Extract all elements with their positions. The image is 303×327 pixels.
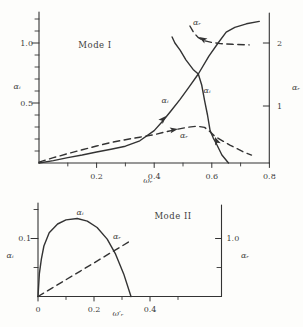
stability-figure: 0.20.40.60.80.51.012αᵣαᵢαᵢαᵣ 00.20.40.11… — [0, 0, 303, 327]
y-right-tick-label: 1.0 — [227, 234, 240, 243]
curve-annotation: αᵣ — [193, 18, 201, 27]
curve-alpha-r-mode2 — [38, 242, 129, 297]
direction-arrowhead — [170, 126, 179, 133]
x-tick-label: 0.2 — [90, 172, 103, 181]
curve-annotation: αᵣ — [180, 131, 188, 140]
mode-i-plot: 0.20.40.60.80.51.012αᵣαᵢαᵢαᵣ — [20, 12, 282, 181]
x-tick-label: 0.4 — [144, 305, 157, 314]
mode-i-left-axis-label: αᵢ — [13, 82, 20, 91]
y-left-tick-label: 0.1 — [18, 234, 31, 243]
x-tick-label: 0.8 — [263, 172, 276, 181]
figure-canvas: 0.20.40.60.80.51.012αᵣαᵢαᵢαᵣ 00.20.40.11… — [0, 0, 303, 327]
x-tick-label: 0 — [35, 305, 40, 314]
direction-arrowhead — [198, 34, 208, 43]
y-left-tick-label: 0.5 — [20, 99, 33, 108]
mode-i-right-axis-label: αᵣ — [292, 83, 300, 92]
mode-ii-title: Mode II — [154, 211, 191, 221]
mode-ii-plot: 00.20.40.11.0αᵢαᵣ — [18, 203, 239, 314]
curve-alpha-i-upper-branch — [172, 37, 228, 163]
x-tick-label: 0.6 — [205, 172, 218, 181]
curve-annotation: αᵢ — [76, 208, 83, 217]
mode-ii-x-axis-label: ω′ᵣ — [112, 309, 123, 318]
curve-annotation: αᵣ — [113, 232, 121, 241]
curve-annotation: αᵢ — [161, 96, 168, 105]
x-tick-label: 0.2 — [88, 305, 101, 314]
mode-ii-right-axis-label: αᵣ — [241, 251, 249, 260]
mode-i-title: Mode I — [78, 40, 111, 50]
curve-alpha-i-lower-branch — [39, 21, 259, 163]
y-right-tick-label: 2 — [277, 39, 282, 48]
curve-alpha-i-mode2 — [38, 219, 131, 297]
y-left-tick-label: 1.0 — [20, 39, 33, 48]
mode-i-x-axis-label: ωᵣ — [143, 176, 153, 185]
y-right-tick-label: 1 — [277, 102, 282, 111]
curve-annotation: αᵢ — [203, 86, 210, 95]
mode-ii-left-axis-label: αᵢ — [6, 251, 13, 260]
